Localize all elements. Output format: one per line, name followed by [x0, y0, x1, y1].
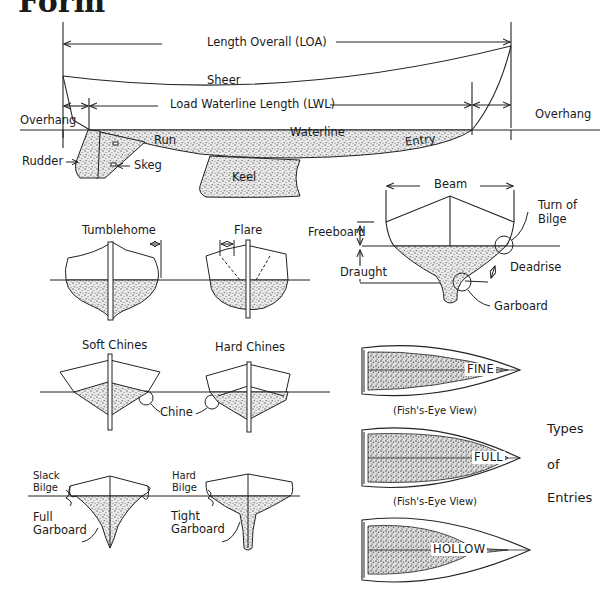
label-overhang-fwd: Overhang [535, 108, 591, 121]
label-sheer: Sheer [207, 74, 240, 87]
label-entry-full: FULL [472, 451, 505, 464]
label-hard-bilge-1: Hard [172, 470, 196, 482]
label-entries: Entries [547, 491, 592, 506]
entry-fine [362, 346, 520, 396]
label-deadrise: Deadrise [510, 261, 561, 274]
label-run: Run [154, 134, 176, 147]
label-flare: Flare [234, 224, 262, 237]
label-keel: Keel [232, 171, 256, 184]
label-tight-garboard-2: Garboard [171, 523, 225, 536]
label-fish-eye-view-1: (Fish's-Eye View) [393, 405, 477, 417]
label-overhang-aft: Overhang [20, 114, 76, 127]
label-garboard: Garboard [494, 300, 548, 313]
label-tumblehome: Tumblehome [82, 224, 156, 237]
hard-bilge-section [206, 474, 293, 496]
label-beam: Beam [434, 178, 467, 191]
label-hard-bilge-2: Bilge [172, 482, 197, 494]
label-waterline: Waterline [290, 126, 345, 139]
label-freeboard: Freeboard [308, 226, 366, 239]
label-types: Types [547, 422, 584, 437]
hard-chines-keel [247, 362, 251, 432]
label-entry-hollow: HOLLOW [431, 543, 487, 556]
label-loa: Length Overall (LOA) [207, 36, 327, 49]
soft-chines-keel [108, 354, 112, 430]
label-skeg: Skeg [134, 159, 162, 172]
label-full-garboard-2: Garboard [33, 524, 87, 537]
tumblehome-section [50, 240, 310, 280]
label-slack-bilge-2: Bilge [33, 482, 58, 494]
hull-form-diagram: Form [0, 0, 612, 604]
pintle-upper [113, 142, 118, 145]
label-hard-chines: Hard Chines [215, 341, 285, 354]
label-entry-fine: FINE [465, 363, 496, 376]
rudder-shape [76, 130, 101, 178]
label-slack-bilge-1: Slack [33, 470, 60, 482]
label-turn-of-bilge-1: Turn of [538, 199, 577, 212]
flare-keel [246, 240, 250, 318]
label-rudder: Rudder [22, 155, 63, 168]
pintle-lower [111, 163, 116, 166]
label-draught: Draught [340, 266, 387, 279]
label-lwl: Load Waterline Length (LWL) [170, 98, 335, 111]
label-soft-chines: Soft Chines [82, 339, 147, 352]
label-of: of [547, 458, 560, 473]
midship-underbody [394, 246, 506, 303]
label-fish-eye-view-2: (Fish's-Eye View) [393, 496, 477, 508]
tumblehome-keel [108, 242, 113, 320]
label-chine: Chine [160, 406, 193, 419]
turn-of-bilge-circle [495, 236, 513, 254]
label-turn-of-bilge-2: Bilge [538, 213, 567, 226]
